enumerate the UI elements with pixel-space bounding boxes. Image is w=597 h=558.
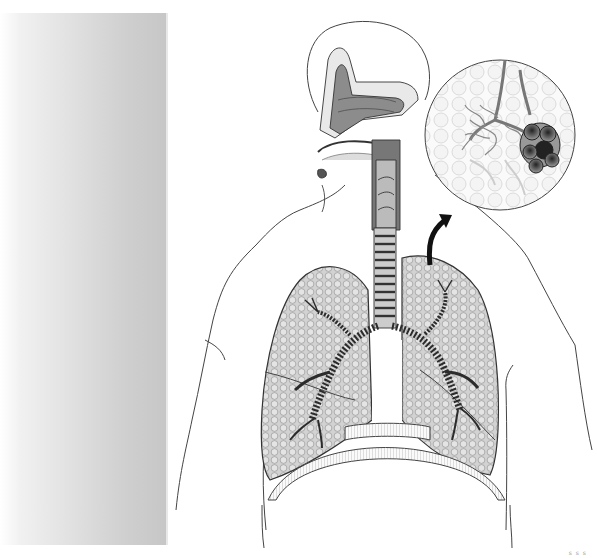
respiratory-system-illustration	[0, 0, 597, 558]
nasal-cavity	[318, 48, 418, 212]
arrow-icon	[429, 220, 445, 265]
alveoli-inset	[425, 60, 575, 265]
right-lung	[261, 267, 372, 480]
trachea	[374, 228, 396, 328]
left-lung	[402, 256, 498, 475]
larynx	[372, 140, 400, 230]
page-mark: s s s	[569, 549, 587, 556]
